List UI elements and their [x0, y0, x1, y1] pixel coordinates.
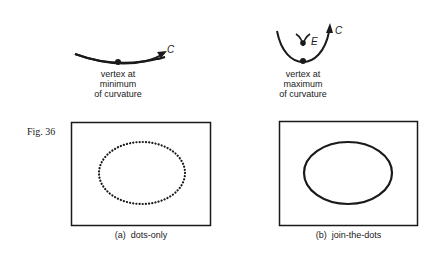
caption-line: vertex at	[272, 69, 334, 79]
vertex-dot	[115, 59, 121, 65]
panel-b-caption: (b) join-the-dots	[279, 230, 418, 240]
panel-a	[72, 123, 211, 226]
caption-prefix: (b)	[316, 230, 327, 240]
curve-label-c: C	[335, 25, 342, 36]
caption-line: vertex at	[88, 69, 148, 79]
vertex-dot	[300, 58, 306, 64]
caption-line: minimum	[88, 79, 148, 89]
figure-canvas	[0, 0, 437, 253]
caption-text: join-the-dots	[332, 230, 382, 240]
curve-label-c: C	[167, 44, 174, 55]
panel-a-caption: (a) dots-only	[71, 230, 211, 240]
arrow-head-icon	[326, 23, 333, 33]
figure-number: Fig. 36	[27, 126, 55, 137]
max-curvature-caption: vertex at maximum of curvature	[272, 69, 334, 99]
caption-text: dots-only	[131, 230, 168, 240]
max-curvature-curve	[277, 23, 333, 64]
caption-line: maximum	[272, 79, 334, 89]
evolute-cusp-dot	[300, 40, 306, 46]
min-curvature-curve	[75, 51, 167, 65]
caption-line: of curvature	[88, 89, 148, 99]
min-curvature-caption: vertex at minimum of curvature	[88, 69, 148, 99]
caption-prefix: (a)	[115, 230, 126, 240]
panel-b	[280, 122, 418, 226]
evolute-label-e: E	[311, 36, 318, 47]
caption-line: of curvature	[272, 89, 334, 99]
